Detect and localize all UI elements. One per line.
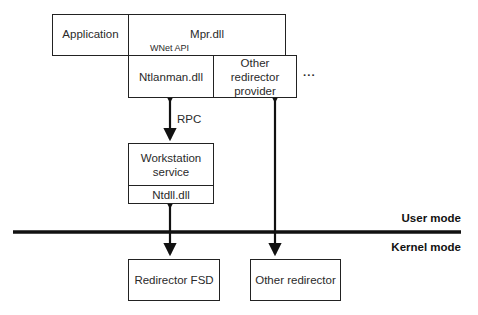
kernel-mode-label: Kernel mode [391,241,461,253]
ellipsis-label: ... [303,66,316,78]
redirector-fsd-box: Redirector FSD [128,259,220,301]
mpr-dll-label: Mpr.dll [190,27,224,41]
other-redirector-provider-box: Other redirector provider [213,55,297,98]
application-box: Application [52,14,129,56]
workstation-service-box: Workstation service [128,143,214,186]
ntdll-dll-box: Ntdll.dll [128,185,214,204]
workstation-service-label: Workstation service [141,151,202,179]
rpc-label: RPC [177,113,201,125]
redirector-fsd-label: Redirector FSD [134,273,213,287]
ntlanman-dll-label: Ntlanman.dll [139,70,203,84]
ntlanman-dll-box: Ntlanman.dll [128,55,214,98]
application-label: Application [62,27,118,41]
ntdll-dll-label: Ntdll.dll [152,188,190,202]
other-redirector-provider-label: Other redirector provider [218,56,292,98]
wnet-api-label: WNet API [150,43,189,53]
other-redirector-label: Other redirector [255,273,336,287]
user-mode-label: User mode [402,212,461,224]
other-redirector-box: Other redirector [250,259,341,301]
